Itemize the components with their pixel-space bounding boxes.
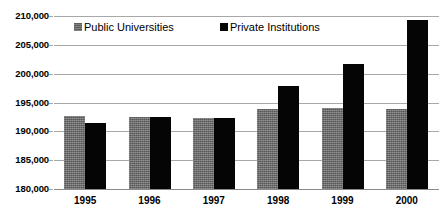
bar-private-1998: [278, 86, 299, 189]
bar-public-1995: [64, 116, 85, 189]
bar-private-1995: [85, 123, 106, 189]
legend-item-private: Private Institutions: [220, 21, 320, 33]
gridline: [53, 131, 439, 132]
y-axis-label: 190,000: [1, 125, 49, 136]
bar-private-1999: [343, 64, 364, 189]
y-axis-label: 210,000: [1, 10, 49, 21]
gridline: [53, 160, 439, 161]
bar-group-1999: [322, 16, 364, 189]
x-axis-label-1997: 1997: [182, 195, 246, 206]
bar-private-1996: [150, 117, 171, 189]
bar-chart: 210,000205,000200,000195,000190,000185,0…: [0, 0, 440, 218]
legend-label-private: Private Institutions: [230, 21, 320, 33]
y-axis-label: 200,000: [1, 68, 49, 79]
legend-label-public: Public Universities: [84, 21, 174, 33]
legend-item-public: Public Universities: [74, 21, 174, 33]
legend-swatch-private-icon: [220, 23, 228, 31]
bar-group-1995: [64, 16, 106, 189]
y-axis-label: 195,000: [1, 97, 49, 108]
bar-public-1996: [129, 117, 150, 189]
chart-title: [0, 0, 440, 3]
y-axis: 210,000205,000200,000195,000190,000185,0…: [0, 0, 49, 218]
gridline: [53, 45, 439, 46]
y-axis-label: 180,000: [1, 183, 49, 194]
bar-public-1999: [322, 108, 343, 189]
gridline: [53, 189, 439, 190]
x-axis-label-1995: 1995: [53, 195, 117, 206]
gridline: [53, 103, 439, 104]
bar-private-1997: [214, 118, 235, 190]
bar-group-1997: [193, 16, 235, 189]
bar-public-1998: [257, 109, 278, 189]
x-axis-label-1996: 1996: [117, 195, 181, 206]
gridline: [53, 74, 439, 75]
y-axis-label: 205,000: [1, 39, 49, 50]
bar-public-2000: [386, 109, 407, 189]
y-axis-line: [53, 16, 54, 190]
bar-group-2000: [386, 16, 428, 189]
x-axis: 199519961997199819992000: [53, 195, 439, 215]
legend-swatch-public-icon: [74, 23, 82, 31]
chart-legend: Public Universities Private Institutions: [74, 20, 320, 34]
x-axis-label-1999: 1999: [310, 195, 374, 206]
plot-area: [53, 16, 439, 189]
gridline: [53, 16, 439, 17]
bar-private-2000: [407, 20, 428, 189]
bar-group-1998: [257, 16, 299, 189]
bar-group-1996: [129, 16, 171, 189]
x-axis-label-1998: 1998: [246, 195, 310, 206]
bar-public-1997: [193, 118, 214, 190]
y-axis-label: 185,000: [1, 154, 49, 165]
x-axis-label-2000: 2000: [375, 195, 439, 206]
